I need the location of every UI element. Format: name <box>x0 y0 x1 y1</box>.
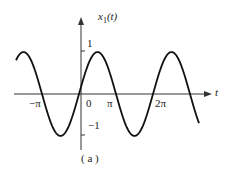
x-tick-label-pi: π <box>107 97 113 109</box>
figure-caption: ( a ) <box>81 152 99 164</box>
y-tick-label-minus-1: −1 <box>88 119 100 131</box>
x-axis-label: t <box>215 86 218 98</box>
x-tick-label-minus-pi: −π <box>29 97 41 109</box>
x-tick-label-2pi: 2π <box>155 97 166 109</box>
y-axis-arrow-icon <box>78 17 84 25</box>
t-axis-arrow-icon <box>204 91 212 97</box>
sinusoid-plot <box>0 0 230 174</box>
x-tick-label-zero: 0 <box>86 97 92 109</box>
y-axis-label: x1(t) <box>98 10 117 25</box>
y-tick-label-1: 1 <box>87 37 93 49</box>
